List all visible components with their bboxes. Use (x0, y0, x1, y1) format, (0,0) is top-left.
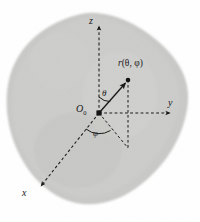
radius-endpoint-dot (126, 78, 131, 83)
origin-marker (96, 110, 101, 115)
axis-label-x: x (21, 187, 27, 198)
figure-canvas: O0 z y x r(θ, φ) θ φ (0, 0, 200, 222)
axis-label-y: y (167, 97, 173, 108)
spherical-coordinates-figure: O0 z y x r(θ, φ) θ φ (0, 0, 200, 222)
radius-vector-label: r(θ, φ) (118, 58, 143, 69)
axis-label-z: z (88, 15, 93, 26)
theta-label: θ (102, 88, 107, 98)
phi-label: φ (93, 128, 98, 138)
